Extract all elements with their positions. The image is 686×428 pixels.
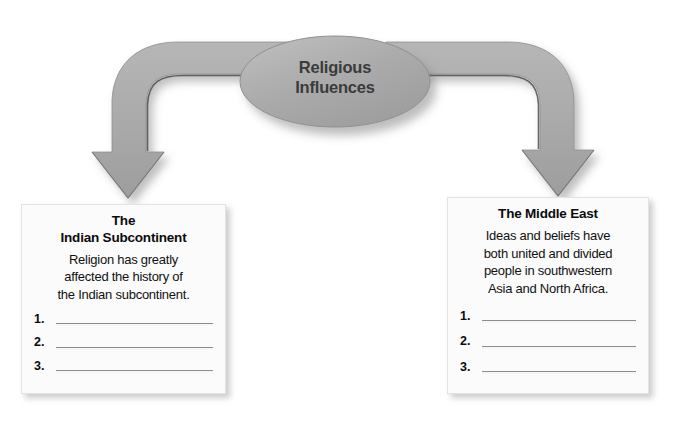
note-body-right-line-4: Asia and North Africa. (454, 280, 642, 298)
blank-line-rule[interactable] (56, 347, 213, 348)
blank-line-rule[interactable] (482, 371, 636, 372)
note-box-middle-east: The Middle East Ideas and beliefs have b… (447, 197, 649, 394)
note-body-right: Ideas and beliefs have both united and d… (448, 223, 648, 298)
blank-line-rule[interactable] (56, 323, 213, 324)
note-body-left-line-3: the Indian subcontinent. (28, 286, 219, 304)
blank-line-rule[interactable] (56, 370, 213, 371)
note-box-indian-subcontinent: The Indian Subcontinent Religion has gre… (21, 204, 226, 394)
blank-line-rule[interactable] (482, 320, 636, 321)
note-body-right-line-3: people in southwestern (454, 262, 642, 280)
note-blank-lines-left: 1. 2. 3. (22, 304, 225, 373)
blank-line-rule[interactable] (482, 346, 636, 347)
note-title-left: The Indian Subcontinent (22, 205, 225, 247)
blank-line-row[interactable]: 3. (34, 360, 213, 373)
note-title-right: The Middle East (448, 198, 648, 223)
note-title-left-line-1: The (22, 213, 225, 230)
blank-line-row[interactable]: 2. (460, 335, 636, 348)
blank-line-number: 2. (460, 335, 477, 348)
note-title-left-line-2: Indian Subcontinent (22, 230, 225, 247)
blank-line-row[interactable]: 1. (460, 310, 636, 323)
blank-line-number: 3. (460, 361, 477, 374)
blank-line-row[interactable]: 2. (34, 336, 213, 349)
blank-line-row[interactable]: 1. (34, 313, 213, 326)
blank-line-number: 1. (460, 310, 477, 323)
note-title-right-line-1: The Middle East (448, 206, 648, 223)
note-body-left-line-2: affected the history of (28, 268, 219, 286)
diagram-canvas: Religious Influences The Indian Subconti… (0, 0, 686, 428)
blank-line-number: 1. (34, 313, 51, 326)
note-blank-lines-right: 1. 2. 3. (448, 298, 648, 374)
note-body-left: Religion has greatly affected the histor… (22, 247, 225, 304)
note-body-right-line-1: Ideas and beliefs have (454, 227, 642, 245)
blank-line-number: 3. (34, 360, 51, 373)
note-body-right-line-2: both united and divided (454, 245, 642, 263)
note-body-left-line-1: Religion has greatly (28, 251, 219, 269)
center-oval (240, 36, 430, 127)
blank-line-number: 2. (34, 336, 51, 349)
blank-line-row[interactable]: 3. (460, 361, 636, 374)
